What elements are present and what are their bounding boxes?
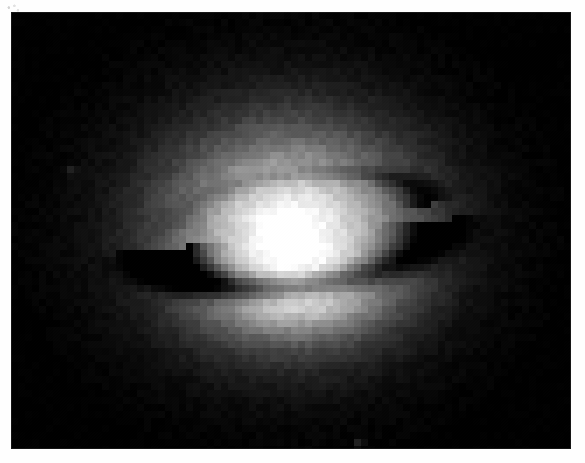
chart-title (0, 0, 1, 1)
chart-notes: Elliptical galaxy bulge with a near-edge… (0, 0, 1, 1)
page-root: Elliptical galaxy bulge with a near-edge… (0, 0, 585, 463)
galaxy-dust-disk-canvas (11, 12, 571, 449)
image-plate (11, 12, 571, 449)
plate-caption (0, 0, 1, 1)
